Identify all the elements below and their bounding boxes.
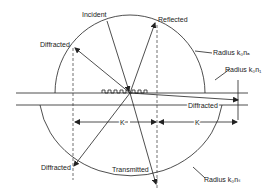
label-k-left: K [120, 119, 125, 126]
label-diffracted-lower: Diffracted [41, 164, 71, 171]
label-transmitted: Transmitted [112, 166, 149, 173]
wavevector-diagram: Incident Reflected Diffracted Radius k₀n… [0, 0, 275, 193]
label-radius-n1: Radius k₀n₁ [225, 66, 262, 73]
label-reflected: Reflected [158, 16, 188, 23]
diffracted-ray-upper [75, 48, 130, 93]
label-diffracted-upper: Diffracted [40, 41, 70, 48]
label-radius-na: Radius k₀nₐ [213, 49, 250, 56]
diffracted-ray-lower [74, 93, 130, 166]
label-k-right: K [195, 119, 200, 126]
diffracted-ray-right [130, 93, 238, 100]
grating [102, 90, 147, 93]
incident-ray [107, 21, 129, 91]
upper-circle-arc [55, 15, 205, 93]
leader-radius-na [195, 51, 212, 53]
label-incident: Incident [82, 11, 107, 18]
label-radius-ns: Radius k₀nₛ [204, 176, 241, 183]
reflected-ray [130, 23, 155, 93]
label-diffracted-right: Diffracted [188, 102, 218, 109]
